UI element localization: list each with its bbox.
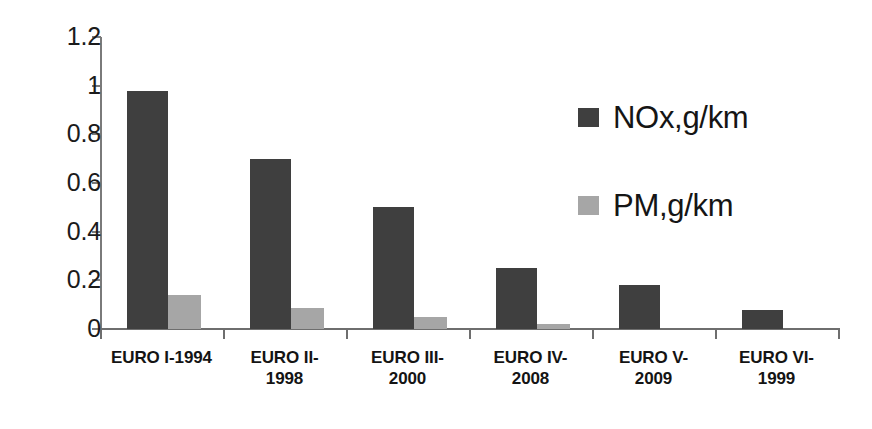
y-axis-tick-label: 0.8 bbox=[27, 121, 101, 146]
bar-nox bbox=[742, 310, 783, 329]
x-axis-label: EURO VI-1999 bbox=[705, 347, 848, 389]
bar-group bbox=[225, 37, 348, 329]
y-axis-tick-label: 0.2 bbox=[27, 267, 101, 292]
x-axis-label: EURO II-1998 bbox=[213, 347, 356, 389]
bar-nox bbox=[373, 207, 414, 329]
legend-item: PM,g/km bbox=[578, 190, 733, 221]
bar-nox bbox=[619, 285, 660, 329]
y-axis-tick-label: 0.4 bbox=[27, 219, 101, 244]
bar-nox bbox=[250, 159, 291, 329]
bar-group bbox=[102, 37, 225, 329]
x-axis-tick-mark bbox=[469, 330, 471, 339]
y-axis-tick-label: 1 bbox=[27, 73, 101, 98]
bar-pm bbox=[291, 308, 324, 329]
bar-group bbox=[717, 37, 840, 329]
x-axis-label-line: EURO V- bbox=[582, 347, 725, 368]
x-axis-label-line: EURO I-1994 bbox=[90, 347, 233, 368]
bar-nox bbox=[496, 268, 537, 329]
bar-group bbox=[348, 37, 471, 329]
bar-chart: 00.20.40.60.811.2 EURO I-1994EURO II-199… bbox=[0, 0, 872, 429]
x-axis-tick-mark bbox=[592, 330, 594, 339]
x-axis-tick-mark bbox=[346, 330, 348, 339]
legend-item: NOx,g/km bbox=[578, 102, 748, 133]
y-axis-tick-label: 1.2 bbox=[27, 24, 101, 49]
x-axis-label-line: EURO VI- bbox=[705, 347, 848, 368]
x-axis-label: EURO IV-2008 bbox=[459, 347, 602, 389]
bar-pm bbox=[537, 324, 570, 329]
x-axis-label-line: 1998 bbox=[213, 368, 356, 389]
legend-label: NOx,g/km bbox=[613, 102, 748, 133]
x-axis-label: EURO I-1994 bbox=[90, 347, 233, 368]
x-axis-tick-mark bbox=[223, 330, 225, 339]
bar-group bbox=[594, 37, 717, 329]
x-axis-label-line: 1999 bbox=[705, 368, 848, 389]
bar-nox bbox=[127, 91, 168, 329]
legend-label: PM,g/km bbox=[613, 190, 733, 221]
x-axis-label: EURO V-2009 bbox=[582, 347, 725, 389]
x-axis-label-line: EURO II- bbox=[213, 347, 356, 368]
x-axis-label-line: EURO III- bbox=[336, 347, 479, 368]
legend-swatch-icon bbox=[578, 108, 599, 127]
y-axis-tick-label: 0.6 bbox=[27, 170, 101, 195]
x-axis-label: EURO III-2000 bbox=[336, 347, 479, 389]
x-axis-label-line: EURO IV- bbox=[459, 347, 602, 368]
y-axis-tick-label: 0 bbox=[27, 316, 101, 341]
x-axis-tick-mark bbox=[838, 330, 840, 339]
legend-swatch-icon bbox=[578, 196, 599, 215]
bar-pm bbox=[414, 317, 447, 329]
x-axis-label-line: 2000 bbox=[336, 368, 479, 389]
x-axis-tick-mark bbox=[100, 330, 102, 339]
x-axis-label-line: 2009 bbox=[582, 368, 725, 389]
bar-group bbox=[471, 37, 594, 329]
bar-pm bbox=[168, 295, 201, 329]
plot-area bbox=[102, 37, 840, 329]
x-axis-label-line: 2008 bbox=[459, 368, 602, 389]
x-axis-tick-mark bbox=[715, 330, 717, 339]
